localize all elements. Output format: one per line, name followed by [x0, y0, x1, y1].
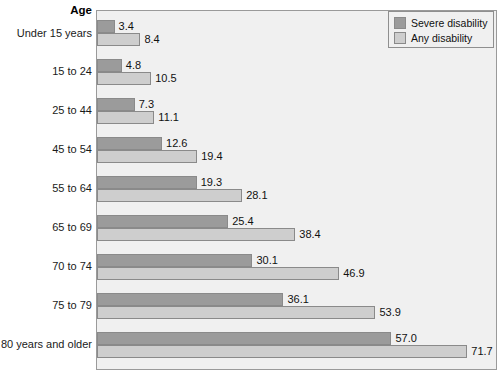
bar-value-severe-3: 12.6	[166, 137, 187, 150]
legend: Severe disability Any disability	[388, 11, 494, 48]
bar-value-severe-7: 36.1	[287, 293, 308, 306]
category-label-8: 80 years and older	[0, 338, 92, 350]
category-label-3: 45 to 54	[0, 143, 92, 155]
legend-swatch-severe-icon	[394, 17, 406, 29]
legend-item-severe: Severe disability	[394, 15, 493, 30]
bar-severe-5	[97, 215, 228, 228]
bar-any-4	[97, 189, 242, 202]
bar-severe-3	[97, 137, 162, 150]
legend-label-severe: Severe disability	[411, 17, 487, 29]
bar-any-8	[97, 345, 467, 358]
bar-value-any-7: 53.9	[379, 306, 400, 319]
bar-value-severe-2: 7.3	[139, 98, 154, 111]
category-label-4: 55 to 64	[0, 182, 92, 194]
bar-value-any-5: 38.4	[299, 228, 320, 241]
bar-any-1	[97, 72, 151, 85]
bar-any-7	[97, 306, 375, 319]
bar-value-severe-1: 4.8	[126, 59, 141, 72]
category-label-7: 75 to 79	[0, 299, 92, 311]
bar-any-2	[97, 111, 154, 124]
bar-any-5	[97, 228, 295, 241]
bar-value-any-3: 19.4	[201, 150, 222, 163]
bar-value-severe-0: 3.4	[119, 20, 134, 33]
bar-severe-1	[97, 59, 122, 72]
bar-value-any-6: 46.9	[343, 267, 364, 280]
category-label-2: 25 to 44	[0, 104, 92, 116]
bar-value-severe-8: 57.0	[395, 332, 416, 345]
category-label-5: 65 to 69	[0, 221, 92, 233]
bar-value-severe-5: 25.4	[232, 215, 253, 228]
disability-by-age-bar-chart: Age Under 15 years 15 to 24 25 to 44 45 …	[0, 0, 502, 384]
legend-item-any: Any disability	[394, 30, 493, 45]
bar-severe-7	[97, 293, 283, 306]
bar-any-0	[97, 33, 140, 46]
category-label-0: Under 15 years	[0, 27, 92, 39]
category-label-1: 15 to 24	[0, 65, 92, 77]
bar-value-any-0: 8.4	[144, 33, 159, 46]
bar-value-any-1: 10.5	[155, 72, 176, 85]
axis-title-age: Age	[0, 4, 92, 16]
category-label-6: 70 to 74	[0, 260, 92, 272]
bar-value-any-8: 71.7	[471, 345, 492, 358]
bar-any-6	[97, 267, 339, 280]
bar-value-severe-4: 19.3	[201, 176, 222, 189]
bar-value-any-4: 28.1	[246, 189, 267, 202]
legend-swatch-any-icon	[394, 32, 406, 44]
legend-label-any: Any disability	[411, 32, 472, 44]
bar-severe-2	[97, 98, 135, 111]
bar-value-severe-6: 30.1	[256, 254, 277, 267]
bar-any-3	[97, 150, 197, 163]
bar-severe-4	[97, 176, 197, 189]
bar-severe-6	[97, 254, 252, 267]
bar-severe-8	[97, 332, 391, 345]
bar-value-any-2: 11.1	[158, 111, 179, 124]
bar-severe-0	[97, 20, 115, 33]
